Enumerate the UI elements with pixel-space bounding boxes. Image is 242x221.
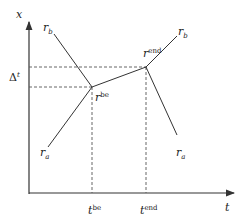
r-end-label: rend: [143, 48, 161, 59]
diagram-canvas: [0, 0, 242, 221]
x-axis-label: t: [225, 202, 229, 213]
line-ra-right: [146, 67, 177, 135]
t-be-label: tbe: [88, 205, 101, 216]
ra-right-label: ra: [176, 147, 185, 158]
rb-left-label: rb: [43, 22, 53, 33]
ra-left-label: ra: [40, 147, 49, 158]
t-end-label: tend: [140, 205, 158, 216]
line-be-end: [92, 67, 146, 87]
y-axis-label: x: [16, 9, 22, 20]
rb-right-label: rb: [178, 26, 188, 37]
line-ra-left: [48, 87, 92, 147]
r-be-label: rbe: [95, 92, 109, 103]
line-rb-left: [54, 34, 92, 87]
delta-label: Δt: [9, 72, 20, 83]
